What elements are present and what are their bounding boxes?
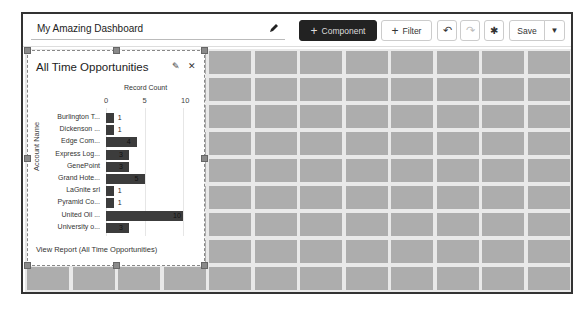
close-icon[interactable]: ✕ [188, 61, 196, 71]
grid-cell [482, 159, 524, 182]
x-tick-label: 10 [181, 96, 189, 105]
grid-cell [528, 213, 570, 236]
view-report-link[interactable]: View Report (All Time Opportunities) [36, 245, 157, 254]
grid-cell [346, 105, 388, 128]
grid-cell [255, 186, 297, 209]
bar[interactable] [106, 198, 114, 208]
category-label: Burlington T... [28, 113, 100, 120]
grid-cell [346, 132, 388, 155]
grid-cell [209, 213, 251, 236]
grid-cell [300, 159, 342, 182]
grid-cell [482, 267, 524, 290]
undo-icon: ↶ [443, 24, 452, 37]
grid-cell [300, 267, 342, 290]
bar-value-label: 3 [119, 163, 123, 170]
category-label: Pyramid Co... [28, 198, 100, 205]
resize-handle[interactable] [113, 262, 120, 269]
bar[interactable] [106, 211, 183, 221]
grid-cell [437, 78, 479, 101]
grid-cell [300, 132, 342, 155]
grid-cell [528, 51, 570, 74]
save-button[interactable]: Save [509, 20, 545, 41]
grid-cell [391, 105, 433, 128]
grid-cell [255, 105, 297, 128]
grid-cell [300, 78, 342, 101]
grid-cell [255, 78, 297, 101]
grid-cell [528, 186, 570, 209]
grid-cell [437, 132, 479, 155]
grid-cell [482, 186, 524, 209]
bar-value-label: 1 [118, 199, 122, 206]
save-label: Save [517, 26, 536, 36]
bar[interactable] [106, 174, 145, 184]
resize-handle[interactable] [113, 47, 120, 54]
widget-title: All Time Opportunities [36, 61, 149, 73]
grid-cell [346, 240, 388, 263]
redo-icon: ↷ [466, 24, 475, 37]
resize-handle[interactable] [201, 262, 208, 269]
bar[interactable] [106, 137, 137, 147]
caret-down-icon: ▼ [551, 26, 559, 35]
dashboard-header: My Amazing Dashboard + Component + Filte… [23, 14, 571, 47]
add-filter-button[interactable]: + Filter [381, 20, 432, 41]
grid-cell [391, 213, 433, 236]
grid-cell [482, 51, 524, 74]
bar[interactable] [106, 113, 114, 123]
pencil-icon[interactable] [269, 23, 279, 33]
grid-cell [437, 240, 479, 263]
bar-value-label: 1 [118, 187, 122, 194]
bar-value-label: 10 [173, 212, 181, 219]
bar-value-label: 3 [119, 151, 123, 158]
resize-handle[interactable] [24, 155, 31, 162]
bar[interactable] [106, 162, 129, 172]
grid-cell [164, 267, 206, 290]
bar-value-label: 3 [119, 224, 123, 231]
bar-value-label: 1 [118, 114, 122, 121]
grid-cell [255, 267, 297, 290]
grid-cell [437, 267, 479, 290]
grid-cell [346, 51, 388, 74]
gridline [183, 108, 184, 236]
grid-cell [209, 132, 251, 155]
bar-value-label: 4 [127, 138, 131, 145]
resize-handle[interactable] [201, 47, 208, 54]
chart-widget[interactable]: All Time Opportunities ✎ ✕ Record Count … [27, 50, 205, 266]
grid-cell [437, 51, 479, 74]
grid-cell [482, 105, 524, 128]
grid-cell [255, 51, 297, 74]
grid-cell [391, 132, 433, 155]
save-menu-button[interactable]: ▼ [544, 20, 565, 41]
settings-button[interactable]: ✱ [484, 20, 504, 41]
component-label: Component [322, 26, 366, 36]
bar[interactable] [106, 186, 114, 196]
x-tick-label: 5 [143, 96, 147, 105]
dashboard-title-input[interactable]: My Amazing Dashboard [31, 20, 285, 40]
resize-handle[interactable] [24, 47, 31, 54]
grid-cell [482, 132, 524, 155]
grid-cell [437, 159, 479, 182]
grid-cell [255, 132, 297, 155]
grid-cell [300, 186, 342, 209]
plus-icon: + [311, 25, 318, 37]
grid-cell [209, 159, 251, 182]
redo-button[interactable]: ↷ [460, 20, 480, 41]
bar[interactable] [106, 223, 129, 233]
grid-cell [528, 132, 570, 155]
bar-value-label: 1 [118, 126, 122, 133]
grid-cell [300, 105, 342, 128]
undo-button[interactable]: ↶ [437, 20, 457, 41]
category-label: Grand Hote... [28, 174, 100, 181]
grid-cell [391, 78, 433, 101]
category-label: LaGnite srl [28, 186, 100, 193]
grid-cell [255, 240, 297, 263]
category-label: University o... [28, 223, 100, 230]
pencil-icon[interactable]: ✎ [172, 61, 180, 71]
grid-cell [391, 240, 433, 263]
bar[interactable] [106, 125, 114, 135]
dashboard-editor: My Amazing Dashboard + Component + Filte… [21, 12, 573, 294]
grid-cell [255, 159, 297, 182]
add-component-button[interactable]: + Component [299, 20, 377, 41]
bar[interactable] [106, 150, 129, 160]
resize-handle[interactable] [24, 262, 31, 269]
resize-handle[interactable] [201, 155, 208, 162]
